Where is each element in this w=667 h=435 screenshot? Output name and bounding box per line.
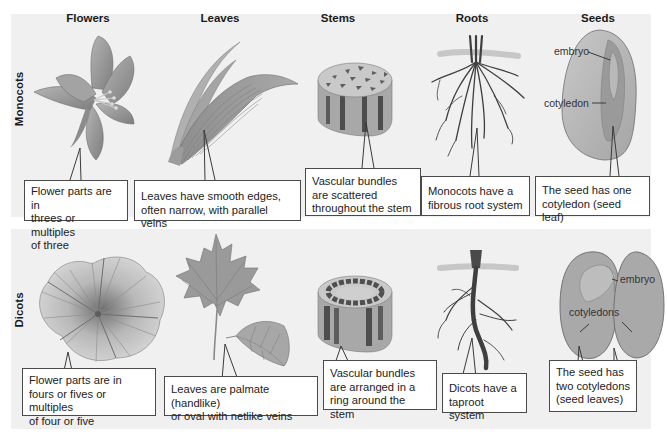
seed-label-cotyledon-monocot: cotyledon [544, 97, 589, 109]
callout-text-line: are scattered [312, 189, 414, 203]
callout-dicot-flowers: Flower parts are in fours or fives or mu… [22, 368, 156, 416]
callout-text-line: Flower parts are in [29, 374, 149, 388]
seed-label-cotyledons-dicot: cotyledons [569, 306, 619, 318]
callout-dicot-leaves: Leaves are palmate (handlike) or oval wi… [164, 376, 318, 416]
callout-text-line: (seed leaves) [556, 393, 630, 407]
dicot-stem-illustration [318, 276, 392, 352]
callout-text-line: of four or five [29, 415, 149, 429]
callout-text-line: Dicots have a [449, 382, 520, 396]
callout-text-line: often narrow, with parallel veins [141, 204, 294, 231]
callout-text-line: Flower parts are in [31, 185, 121, 212]
callout-text-line: are arranged in a [330, 381, 430, 395]
monocot-flower-illustration [34, 36, 134, 160]
callout-monocot-roots: Monocots have a fibrous root system [421, 176, 530, 216]
callout-monocot-seeds: The seed has one cotyledon (seed leaf) [535, 176, 650, 216]
callout-text-line: or oval with netlike veins [171, 410, 311, 424]
callout-text-line: Vascular bundles [312, 175, 414, 189]
callout-monocot-leaves: Leaves have smooth edges, often narrow, … [134, 180, 301, 221]
callout-text-line: The seed has [556, 366, 630, 380]
callout-text-line: Vascular bundles [330, 367, 430, 381]
callout-text-line: fibrous root system [428, 199, 523, 213]
monocot-fibrous-root-illustration [432, 36, 524, 156]
callout-text-line: threes or multiples [31, 212, 121, 239]
monocot-stem-illustration [318, 63, 392, 136]
callout-monocot-stems: Vascular bundles are scattered throughou… [305, 168, 421, 216]
monocot-dicot-comparison-diagram: Flowers Leaves Stems Roots Seeds Monocot… [0, 0, 667, 435]
callout-dicot-stems: Vascular bundles are arranged in a ring … [323, 360, 437, 410]
dicot-flower-illustration [40, 257, 165, 362]
callout-text-line: of three [31, 239, 121, 253]
callout-monocot-flowers: Flower parts are in threes or multiples … [24, 180, 128, 221]
monocot-leaf-illustration [168, 42, 298, 166]
callout-text-line: The seed has one [542, 184, 643, 198]
callout-text-line: taproot system [449, 396, 520, 423]
callout-text-line: throughout the stem [312, 202, 414, 216]
dicot-taproot-illustration [438, 250, 516, 368]
seed-label-embryo-monocot: embryo [554, 45, 589, 57]
callout-dicot-seeds: The seed has two cotyledons (seed leaves… [549, 360, 637, 412]
callout-text-line: Leaves are palmate (handlike) [171, 383, 311, 410]
dicot-leaf-illustration [176, 234, 289, 366]
callout-text-line: cotyledon (seed leaf) [542, 198, 643, 225]
callout-dicot-roots: Dicots have a taproot system [442, 373, 527, 413]
callout-text-line: ring around the stem [330, 394, 430, 421]
callout-text-line: Monocots have a [428, 185, 523, 199]
callout-text-line: Leaves have smooth edges, [141, 190, 294, 204]
seed-label-embryo-dicot: embryo [620, 273, 655, 285]
callout-text-line: fours or fives or multiples [29, 388, 149, 415]
callout-text-line: two cotyledons [556, 380, 630, 394]
